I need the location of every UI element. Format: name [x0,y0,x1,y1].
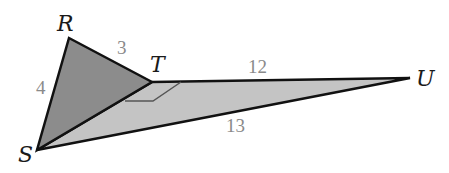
vertex-label-t: T [150,52,167,77]
side-length-rt: 3 [117,37,127,58]
vertex-label-u: U [416,66,436,91]
side-length-su: 13 [226,115,245,136]
side-length-tu: 12 [248,56,267,77]
vertex-label-s: S [18,142,33,167]
side-length-rs: 4 [36,77,46,98]
triangle-diagram: R T U S 3 4 12 13 [0,0,449,173]
vertex-label-r: R [56,11,74,36]
